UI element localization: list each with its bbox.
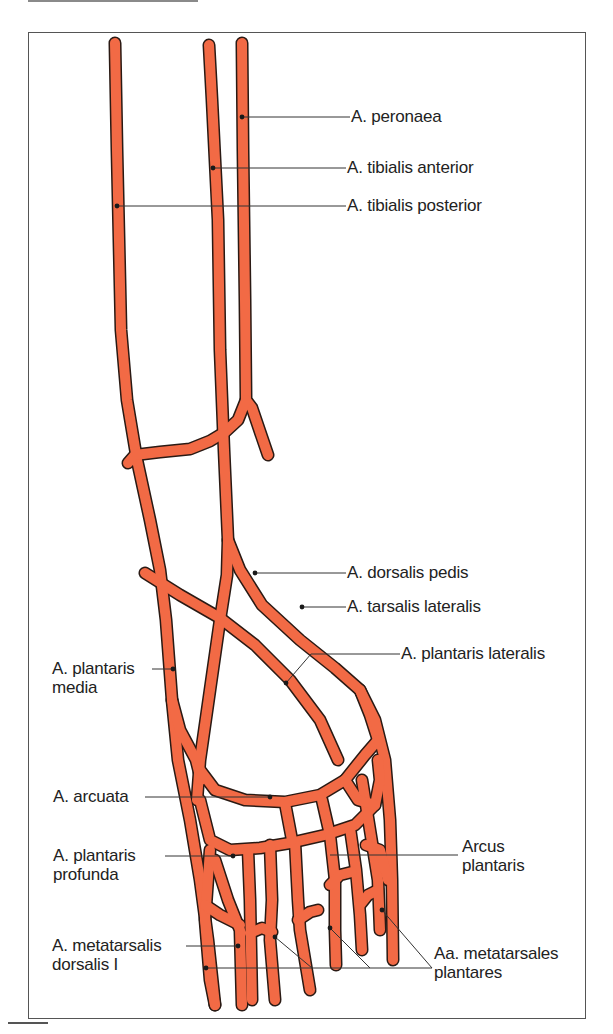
marker-metatarsales-plantares-3 xyxy=(380,908,385,913)
label-plantaris-profunda: A. plantaris profunda xyxy=(53,846,136,884)
label-dorsalis-pedis: A. dorsalis pedis xyxy=(347,563,468,582)
marker-plantaris-media xyxy=(171,667,176,672)
label-peronaea: A. peronaea xyxy=(351,107,441,126)
label-tibialis-posterior: A. tibialis posterior xyxy=(347,196,482,215)
marker-plantaris-profunda xyxy=(231,854,236,859)
marker-tarsalis-lateralis xyxy=(300,605,305,610)
label-tibialis-anterior: A. tibialis anterior xyxy=(347,158,473,177)
label-plantaris-profunda-line1: A. plantaris xyxy=(53,846,136,865)
marker-metatarsales-plantares-2 xyxy=(328,926,333,931)
marker-arcuata xyxy=(268,795,273,800)
label-plantaris-media-line2: media xyxy=(52,678,135,697)
marker-tibialis-anterior xyxy=(211,166,216,171)
label-plantaris-media: A. plantaris media xyxy=(52,659,135,697)
marker-tibialis-posterior xyxy=(115,204,120,209)
label-metatarsales-plantares: Aa. metatarsales plantares xyxy=(434,944,558,982)
marker-dorsalis-pedis xyxy=(253,571,258,576)
label-arcuata: A. arcuata xyxy=(53,787,129,806)
label-metatarsalis-dorsalis: A. metatarsalis dorsalis I xyxy=(52,936,161,974)
marker-peronaea xyxy=(240,115,245,120)
label-arcus-plantaris: Arcus plantaris xyxy=(462,837,524,875)
label-metatarsalis-dorsalis-line2: dorsalis I xyxy=(52,955,161,974)
marker-plantaris-lateralis xyxy=(284,681,289,686)
label-metatarsales-plantares-line2: plantares xyxy=(434,963,558,982)
label-metatarsales-plantares-line1: Aa. metatarsales xyxy=(434,944,558,963)
label-metatarsalis-dorsalis-line1: A. metatarsalis xyxy=(52,936,161,955)
label-arcus-plantaris-line1: Arcus xyxy=(462,837,524,856)
label-arcus-plantaris-line2: plantaris xyxy=(462,856,524,875)
marker-metatarsalis-dorsalis-2 xyxy=(204,966,209,971)
label-plantaris-lateralis: A. plantaris lateralis xyxy=(401,644,545,663)
label-plantaris-profunda-line2: profunda xyxy=(53,865,136,884)
marker-metatarsalis-dorsalis xyxy=(236,944,241,949)
label-plantaris-media-line1: A. plantaris xyxy=(52,659,135,678)
label-tarsalis-lateralis: A. tarsalis lateralis xyxy=(347,597,481,616)
marker-metatarsales-plantares-1 xyxy=(273,935,278,940)
